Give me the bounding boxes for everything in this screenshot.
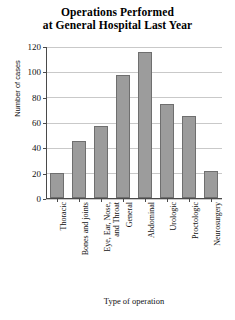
bar xyxy=(182,116,196,198)
x-axis-title: Type of operation xyxy=(46,296,222,306)
x-tick-label-line: General xyxy=(126,202,135,288)
x-tick-label-line: Abdominal xyxy=(148,202,157,288)
y-tick-label: 60 xyxy=(32,118,41,128)
bar xyxy=(72,141,86,198)
bar xyxy=(160,104,174,198)
x-tick-label: General xyxy=(126,202,135,288)
x-tick-label: Bones and joints xyxy=(82,202,91,288)
y-tick-label: 0 xyxy=(37,194,42,204)
plot-area: 020406080100120 xyxy=(46,47,222,199)
y-tick-label: 100 xyxy=(28,67,42,77)
x-tick-label-line: Urologic xyxy=(170,202,179,288)
y-axis-line xyxy=(46,47,47,199)
x-tick-label: Proctologic xyxy=(192,202,201,288)
x-tick-label: Abdominal xyxy=(148,202,157,288)
chart-title: Operations Performed at General Hospital… xyxy=(0,6,235,32)
y-axis-title: Number of cases xyxy=(13,34,22,144)
y-tick-label: 20 xyxy=(32,169,41,179)
chart-title-line-2: at General Hospital Last Year xyxy=(0,19,235,32)
x-tick-label: Urologic xyxy=(170,202,179,288)
chart-title-line-1: Operations Performed xyxy=(0,6,235,19)
bar-chart-figure: Operations Performed at General Hospital… xyxy=(0,0,235,320)
x-tick-label-line: Thoracic xyxy=(60,202,69,288)
bar xyxy=(116,75,130,198)
x-tick-label-line: Bones and joints xyxy=(82,202,91,288)
bar-series xyxy=(46,47,222,199)
y-tick-label: 40 xyxy=(32,143,41,153)
bar xyxy=(204,171,218,198)
bar xyxy=(138,52,152,198)
x-axis-line xyxy=(46,198,222,199)
x-axis-tick-labels: ThoracicBones and jointsEye, Ear, Nose,a… xyxy=(46,202,222,290)
x-tick-label: Neurosurgery xyxy=(214,202,223,288)
y-tick-label: 120 xyxy=(28,42,42,52)
x-tick-label-line: Proctologic xyxy=(192,202,201,288)
x-tick-label-line: Neurosurgery xyxy=(214,202,223,288)
x-tick-label: Thoracic xyxy=(60,202,69,288)
x-tick-label-line: and Throat xyxy=(113,202,122,288)
y-tick-label: 80 xyxy=(32,93,41,103)
bar xyxy=(50,173,64,198)
y-tick-mark xyxy=(43,199,46,200)
x-tick-label: Eye, Ear, Nose,and Throat xyxy=(104,202,121,288)
bar xyxy=(94,126,108,198)
